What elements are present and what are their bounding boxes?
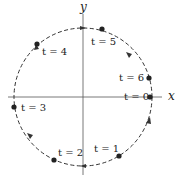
point-t4 xyxy=(34,41,39,46)
label-t3: t = 3 xyxy=(21,102,46,113)
label-t2: t = 2 xyxy=(58,147,83,158)
label-t0: t = 0 xyxy=(124,91,149,102)
point-t2 xyxy=(51,157,56,162)
point-t3 xyxy=(11,104,16,109)
point-t5 xyxy=(99,26,104,31)
arrow-icon xyxy=(126,52,132,58)
point-t6 xyxy=(146,75,151,80)
y-axis-label: y xyxy=(79,0,87,14)
parametric-circle-diagram: x y t = 0 t = 1 t = 2 t = 3 t = 4 t = 5 … xyxy=(0,0,180,175)
label-t5: t = 5 xyxy=(91,36,116,47)
x-axis-label: x xyxy=(168,89,175,103)
label-t4: t = 4 xyxy=(42,46,67,57)
label-t6: t = 6 xyxy=(119,72,144,83)
point-t1 xyxy=(116,153,121,158)
label-t1: t = 1 xyxy=(94,143,119,154)
